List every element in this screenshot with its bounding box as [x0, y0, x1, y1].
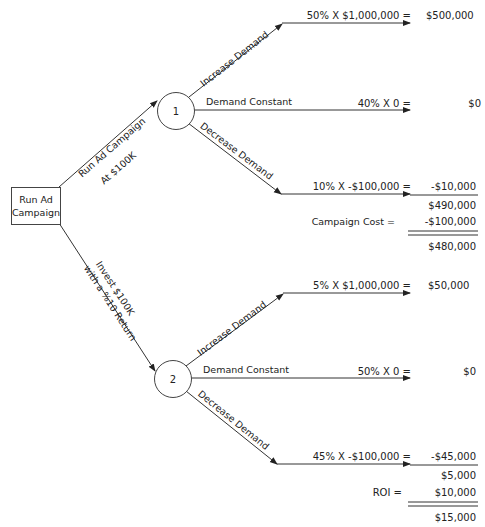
- node2-constant-label: Demand Constant: [203, 364, 289, 376]
- node1-adjust-label: Campaign Cost =: [312, 216, 395, 228]
- node2-value-decrease: -$45,000: [431, 451, 476, 463]
- root-label-line2: Campaign: [12, 206, 60, 219]
- root-label-line1: Run Ad: [12, 193, 60, 206]
- node1-subtotal: $490,000: [428, 200, 476, 212]
- node2-formula-constant: 50% X 0 =: [358, 366, 411, 378]
- node2-adjust-label: ROI =: [373, 487, 402, 499]
- node1-adjust-value: -$100,000: [425, 216, 476, 228]
- chance-node-2: 2: [154, 360, 192, 398]
- node2-value-constant: $0: [463, 366, 476, 378]
- node2-adjust-value: $10,000: [435, 487, 476, 499]
- node2-formula-increase: 5% X $1,000,000 =: [313, 280, 411, 292]
- node1-formula-increase: 50% X $1,000,000 =: [307, 10, 411, 22]
- node-1-label: 1: [173, 106, 179, 117]
- node1-total: $480,000: [428, 241, 476, 253]
- node1-value-increase: $500,000: [426, 10, 474, 22]
- node2-formula-decrease: 45% X -$100,000 =: [313, 451, 411, 463]
- root-decision-box: Run Ad Campaign: [11, 187, 61, 225]
- node2-total: $15,000: [435, 512, 476, 524]
- node2-subtotal: $5,000: [441, 470, 476, 482]
- tree-lines: [0, 0, 485, 527]
- node1-value-decrease: -$10,000: [431, 181, 476, 193]
- node1-value-constant: $0: [468, 98, 481, 110]
- node1-formula-decrease: 10% X -$100,000 =: [313, 181, 411, 193]
- node1-constant-label: Demand Constant: [206, 96, 292, 108]
- chance-node-1: 1: [157, 92, 195, 130]
- node1-formula-constant: 40% X 0 =: [358, 98, 411, 110]
- node-2-label: 2: [170, 374, 176, 385]
- node2-value-increase: $50,000: [428, 280, 469, 292]
